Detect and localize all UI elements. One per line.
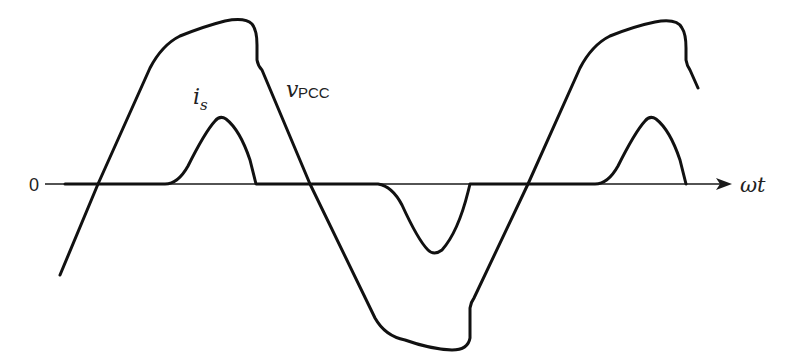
i-s-curve [65, 117, 686, 253]
svg-text:i: i [193, 84, 200, 109]
i-s-label: i s [193, 84, 208, 114]
svg-text:PCC: PCC [298, 84, 330, 101]
x-axis-label: ωt [740, 173, 766, 197]
origin-label: 0 [29, 175, 39, 195]
svg-text:s: s [200, 96, 208, 114]
v-pcc-label: v PCC [286, 77, 330, 102]
waveform-diagram: 0 ωt v PCC i s [0, 0, 788, 361]
